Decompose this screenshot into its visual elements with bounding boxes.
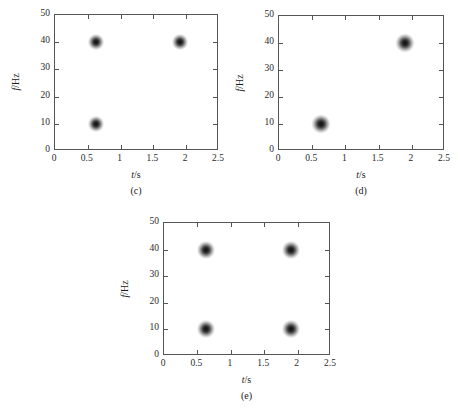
x-ticklabel-e-1: 0.5 — [190, 359, 202, 369]
y-ticklabel-e-0: 0 — [141, 350, 159, 360]
y-tick-e-2 — [164, 303, 168, 304]
data-blob — [281, 320, 300, 339]
x-tick-top-e-2 — [231, 223, 232, 227]
x-ticklabel-e-3: 1.5 — [257, 359, 269, 369]
y-tick-e-4 — [164, 250, 168, 251]
y-ticklabel-e-4: 40 — [141, 244, 159, 254]
x-tick-top-e-1 — [197, 223, 198, 227]
data-blob — [197, 320, 216, 339]
x-tick-e-4 — [298, 350, 299, 354]
x-axis-title-e: t/s — [242, 375, 251, 385]
x-ticklabel-e-4: 2 — [294, 359, 299, 369]
x-tick-e-2 — [231, 350, 232, 354]
y-tick-right-e-1 — [325, 329, 329, 330]
x-tick-top-e-4 — [298, 223, 299, 227]
panel-e: 00.511.522.501020304050t/sf/Hz(e) — [0, 0, 461, 412]
y-tick-e-3 — [164, 276, 168, 277]
data-blob — [197, 240, 216, 259]
data-blob — [281, 240, 300, 259]
y-tick-right-e-2 — [325, 303, 329, 304]
x-ticklabel-e-2: 1 — [227, 359, 232, 369]
y-tick-right-e-3 — [325, 276, 329, 277]
x-tick-top-e-3 — [264, 223, 265, 227]
y-ticklabel-e-5: 50 — [141, 217, 159, 227]
plot-area-e — [163, 222, 330, 355]
figure-root: 00.511.522.501020304050t/sf/Hz(c)00.511.… — [0, 0, 461, 412]
panel-caption-e: (e) — [241, 391, 252, 401]
y-ticklabel-e-1: 10 — [141, 324, 159, 334]
y-axis-title-e: f/Hz — [120, 280, 130, 297]
x-tick-e-1 — [197, 350, 198, 354]
y-tick-right-e-4 — [325, 250, 329, 251]
y-ticklabel-e-2: 20 — [141, 297, 159, 307]
x-tick-e-3 — [264, 350, 265, 354]
x-ticklabel-e-0: 0 — [161, 359, 166, 369]
x-ticklabel-e-5: 2.5 — [324, 359, 336, 369]
y-tick-e-1 — [164, 329, 168, 330]
y-ticklabel-e-3: 30 — [141, 270, 159, 280]
